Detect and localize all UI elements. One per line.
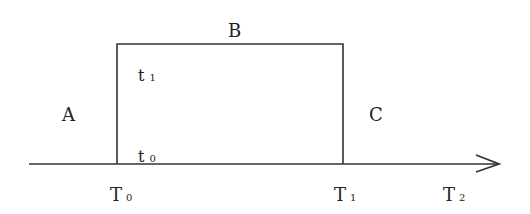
axis-label-T2-sub: 2 (459, 192, 465, 203)
axis-label-T0-sub: 0 (126, 192, 132, 203)
axis-label-T1-base: T (334, 184, 346, 205)
axis-label-T1-sub: 1 (350, 192, 356, 203)
region-label-a: A (61, 104, 76, 125)
interval-box (117, 44, 343, 164)
axis-label-T1: T1 (334, 184, 356, 205)
region-label-c: C (369, 104, 383, 125)
inner-label-t0-sub: 0 (149, 153, 155, 164)
inner-label-t0: t0 (138, 147, 156, 166)
axis-label-T0: T0 (110, 184, 132, 205)
inner-label-t1-sub: 1 (149, 72, 155, 83)
axis-label-T2-base: T (443, 184, 455, 205)
inner-label-t1: t1 (138, 66, 156, 85)
inner-label-t0-base: t (138, 147, 145, 166)
axis-label-T2: T2 (443, 184, 465, 205)
interval-diagram: B A C t1 t0 T0 T1 T2 (0, 0, 530, 214)
region-label-b: B (228, 20, 241, 41)
axis-label-T0-base: T (110, 184, 122, 205)
inner-label-t1-base: t (138, 66, 145, 85)
